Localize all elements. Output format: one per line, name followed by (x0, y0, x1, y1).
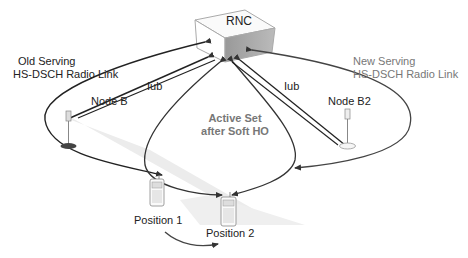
old-link-label-1: Old Serving (18, 55, 75, 68)
node-b2-label: Node B2 (328, 95, 371, 108)
active-set-label-2: after Soft HO (195, 125, 275, 138)
position-2-label: Position 2 (206, 227, 254, 240)
node-b-label: Node B (91, 95, 128, 108)
iub-left-link (70, 57, 208, 118)
phone-position-2-icon (221, 192, 236, 226)
new-link-label-1: New Serving (353, 55, 415, 68)
phone-position-1-icon (150, 175, 164, 206)
active-beam (180, 195, 305, 225)
active-set-label-1: Active Set (195, 112, 275, 125)
rnc-label: RNC (226, 15, 252, 28)
iub-left-label: Iub (147, 80, 162, 93)
position-1-label: Position 1 (134, 214, 182, 227)
old-link-label-2: HS-DSCH Radio Link (13, 68, 118, 81)
iub-right-label: Iub (284, 80, 299, 93)
new-link-label-2: HS-DSCH Radio Link (353, 68, 458, 81)
